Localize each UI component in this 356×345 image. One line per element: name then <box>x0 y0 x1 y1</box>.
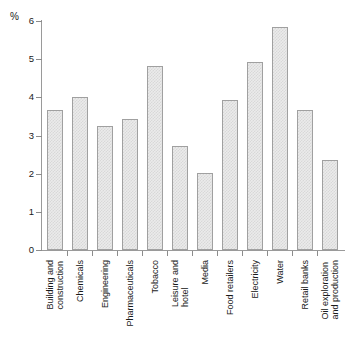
y-axis-unit-label: % <box>10 12 19 22</box>
bar <box>72 97 88 250</box>
bar <box>222 100 238 250</box>
bar <box>147 66 163 250</box>
x-axis-tick <box>142 251 143 256</box>
x-axis-label-line: Retail banks <box>300 260 310 310</box>
x-axis-label: Media <box>200 260 225 344</box>
x-axis-tick <box>92 251 93 256</box>
x-axis-label-line: Leisure and <box>170 260 180 307</box>
x-axis-label-line: hotel <box>180 260 190 307</box>
y-axis-tick-label: 1 <box>24 207 34 217</box>
x-axis-label-line: and production <box>330 260 340 320</box>
x-axis-label-line: Engineering <box>100 260 110 308</box>
x-axis-tick <box>192 251 193 256</box>
x-axis-tick <box>292 251 293 256</box>
bar-chart: % 0123456 Building andconstructionChemic… <box>0 0 356 345</box>
bar <box>197 173 213 250</box>
x-axis-label-line: Food retailers <box>225 260 235 315</box>
x-axis-tick <box>167 251 168 256</box>
x-axis-tick <box>317 251 318 256</box>
y-axis-tick-label: 2 <box>24 169 34 179</box>
x-axis-label-line: Chemicals <box>75 260 85 302</box>
x-axis-label-line: construction <box>55 260 65 310</box>
y-axis-tick-label: 3 <box>24 131 34 141</box>
bar <box>247 62 263 250</box>
x-axis-label: Water <box>275 260 299 344</box>
x-axis-label-line: Pharmaceuticals <box>125 260 135 327</box>
x-axis-label-line: Water <box>275 260 285 284</box>
y-axis-tick-label: 5 <box>24 54 34 64</box>
x-axis-label-line: Building and <box>45 260 55 310</box>
x-axis-tick <box>117 251 118 256</box>
x-axis-tick <box>242 251 243 256</box>
x-axis-label-line: Electricity <box>250 260 260 299</box>
y-axis-tick-label: 6 <box>24 16 34 26</box>
x-axis-tick <box>267 251 268 256</box>
x-axis-line <box>41 250 345 251</box>
y-axis-tick <box>36 250 42 251</box>
bar <box>272 27 288 250</box>
bar <box>322 160 338 250</box>
bar <box>172 146 188 250</box>
x-axis-label-line: Tobacco <box>150 260 160 294</box>
bar <box>97 126 113 250</box>
x-axis-label: Oil explorationand production <box>320 260 356 344</box>
bar <box>122 119 138 250</box>
y-axis-tick-label: 0 <box>24 245 34 255</box>
plot-area <box>42 21 342 250</box>
x-axis-label-line: Oil exploration <box>320 260 330 320</box>
x-axis-tick <box>67 251 68 256</box>
bar <box>47 110 63 250</box>
x-axis-label-line: Media <box>200 260 210 285</box>
bar <box>297 110 313 250</box>
x-axis-tick <box>217 251 218 256</box>
y-axis-tick-label: 4 <box>24 92 34 102</box>
